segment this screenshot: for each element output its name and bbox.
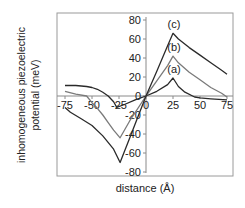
series-labels: (a)(b)(c) [167, 18, 180, 75]
series-label: (c) [168, 18, 181, 30]
y-tick-label: 80 [129, 14, 141, 26]
y-tick-label: 20 [129, 71, 141, 83]
x-tick-label: -75 [57, 99, 73, 111]
y-tick-label: 60 [129, 33, 141, 45]
x-tick-label: 75 [221, 99, 233, 111]
y-tick-label: -60 [125, 147, 141, 159]
y-axis-title-line-1: inhomogeneous piezoelectric [14, 27, 28, 163]
y-tick-label: 40 [129, 52, 141, 64]
y-axis-title-line-2: potential (meV) [28, 27, 42, 163]
x-tick-label: 25 [167, 99, 179, 111]
series-label: (a) [167, 63, 180, 75]
x-axis-title: distance (Å) [100, 182, 190, 194]
x-tick-label: 50 [194, 99, 206, 111]
y-axis-title: inhomogeneous piezoelectric potential (m… [2, 20, 54, 170]
series-label: (b) [167, 41, 180, 53]
plot-frame [57, 13, 233, 176]
y-tick-label: -80 [125, 166, 141, 178]
